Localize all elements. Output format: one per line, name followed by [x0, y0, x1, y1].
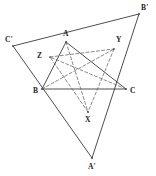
dashed-edge-X-Z: [50, 57, 88, 112]
vertex-dot-C-prime: [12, 45, 14, 47]
vertex-label-Z: Z: [37, 52, 42, 60]
vertex-dot-A-prime: [91, 157, 93, 159]
vertex-dot-A: [65, 41, 67, 43]
vertex-label-A-prime: A': [88, 163, 96, 171]
vertex-dot-Z: [49, 56, 51, 58]
edge-Cp-Ap: [13, 46, 92, 158]
vertex-label-C: C: [130, 87, 136, 95]
vertex-dot-C: [125, 88, 127, 90]
dashed-edge-Z-Y: [50, 49, 114, 57]
vertex-label-A: A: [63, 30, 69, 38]
edge-A-B: [42, 42, 66, 89]
vertex-dot-B: [41, 88, 43, 90]
vertex-label-B: B: [33, 87, 38, 95]
vertex-dot-B-prime: [138, 13, 140, 15]
vertex-dot-Y: [113, 48, 115, 50]
geometry-figure: A B C A' B' C' X Y Z: [0, 0, 156, 176]
vertex-label-X: X: [85, 116, 91, 124]
dashed-cevian-A-X: [66, 42, 88, 112]
vertex-label-Y: Y: [116, 36, 122, 44]
vertex-label-B-prime: B': [141, 4, 149, 12]
vertex-dot-X: [87, 111, 89, 113]
vertex-label-C-prime: C': [5, 36, 13, 44]
dashed-edge-layer: [42, 42, 126, 112]
